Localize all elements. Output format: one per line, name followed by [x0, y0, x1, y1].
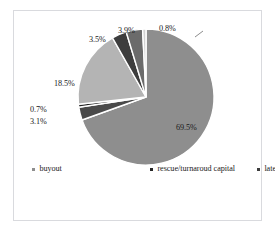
legend-swatch-icon-rescue-turnaroud-capital: [150, 168, 153, 171]
pct-label-buyout: 69.5%: [176, 123, 197, 132]
legend-label-buyout: buyout: [39, 165, 61, 173]
pct-label-growth-capital: 18.5%: [54, 79, 75, 88]
legend-item-buyout[interactable]: buyout: [32, 163, 150, 176]
legend-item-rescue-turnaroud-capital[interactable]: rescue/turnaroud capital: [150, 163, 257, 176]
pct-label-rescue-turnaroud-capital: 0.7%: [30, 105, 47, 114]
legend-label-rescue-turnaroud-capital: rescue/turnaroud capital: [157, 165, 235, 173]
pct-label-start-up: 3.9%: [118, 26, 135, 35]
leader-line-seed: [195, 31, 203, 37]
pct-label-seed: 0.8%: [159, 24, 176, 33]
pct-label-later-stage-venture: 3.5%: [89, 35, 106, 44]
leader-line-group: [195, 31, 203, 37]
pct-label-replacement-capital: 3.1%: [30, 117, 47, 126]
pie-slice-group: [78, 29, 214, 165]
legend-swatch-icon-later-stage-venture: [257, 168, 260, 171]
chart-frame: 3.5% 3.9% 0.8% 18.5% 0.7% 3.1% 69.5% buy…: [13, 10, 262, 221]
pie-chart-plot-area: 3.5% 3.9% 0.8% 18.5% 0.7% 3.1% 69.5% buy…: [14, 11, 263, 222]
chart-legend: buyoutrescue/turnaroud capitallater-stag…: [32, 163, 257, 176]
legend-swatch-icon-buyout: [32, 168, 35, 171]
pie-chart-svg: [14, 11, 263, 222]
legend-item-later-stage-venture[interactable]: later-stage venture: [257, 163, 275, 176]
legend-label-later-stage-venture: later-stage venture: [264, 165, 275, 173]
